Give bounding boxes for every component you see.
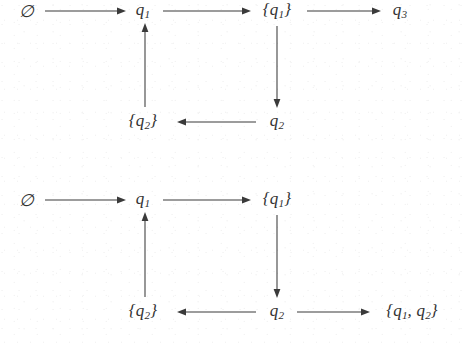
q1-base: q [136,0,145,19]
edge-set-q1-to-q2 [274,26,281,108]
edge-empty-to-q1 [45,8,126,15]
node-set-q2: {q2} [129,302,157,321]
brace-open: { [263,0,270,19]
edge-set-q2-to-q1 [142,212,149,297]
edge-q1-to-set-q1 [163,197,251,204]
empty-set-symbol: ∅ [19,191,34,210]
brace-close: } [284,0,291,19]
node-empty-set: ∅ [19,3,34,20]
edge-empty-to-q1 [45,197,126,204]
edge-set-q1-to-q2 [274,215,281,298]
state-transition-figure: ∅ q1 {q1} q3 {q2} q2 [0,0,467,344]
empty-set-symbol: ∅ [19,2,34,21]
node-q1: q1 [136,1,150,20]
brace-close: } [284,189,291,208]
diagram-1: ∅ q1 {q1} q3 {q2} q2 [0,0,467,172]
node-set-q1-q2: {q1, q2} [386,302,438,321]
q1-base: q [393,301,402,320]
q2-subscript: 2 [279,119,285,131]
edge-q1-to-set-q1 [163,8,251,15]
q2-base: q [270,111,279,130]
brace-open: { [129,301,136,320]
brace-open: { [129,111,136,130]
q2-base: q [136,111,145,130]
q1-subscript: 1 [145,197,151,209]
node-q2: q2 [270,112,284,131]
node-q1: q1 [136,190,150,209]
edge-set-q1-to-q3 [307,8,381,15]
diagram-2: ∅ q1 {q1} {q2} q2 {q1, q2} [0,172,467,344]
q2-base: q [270,301,279,320]
node-set-q2: {q2} [129,112,157,131]
node-set-q1: {q1} [263,1,291,20]
edge-q2-to-set-q1-q2 [297,309,370,316]
brace-close: } [431,301,438,320]
brace-close: } [150,301,157,320]
node-empty-set: ∅ [19,192,34,209]
node-q2: q2 [270,302,284,321]
q3-base: q [393,0,402,19]
q2-subscript: 2 [279,309,285,321]
q2-base: q [416,301,425,320]
q1-subscript: 1 [145,8,151,20]
q1-base: q [136,189,145,208]
q2-base: q [136,301,145,320]
comma-separator: , [408,301,412,320]
edge-set-q2-to-q1 [142,23,149,107]
edge-q2-to-set-q2 [177,309,256,316]
q1-base: q [270,0,279,19]
diagram-1-edges [0,0,467,172]
node-q3: q3 [393,1,407,20]
brace-close: } [150,111,157,130]
q3-subscript: 3 [402,8,408,20]
node-set-q1: {q1} [263,190,291,209]
brace-open: { [386,301,393,320]
brace-open: { [263,189,270,208]
edge-q2-to-set-q2 [177,119,256,126]
q1-base: q [270,189,279,208]
